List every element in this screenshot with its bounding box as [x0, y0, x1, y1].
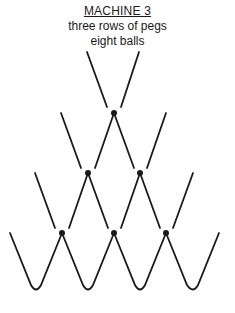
peg — [85, 170, 91, 176]
peg — [59, 230, 65, 236]
peg — [163, 230, 169, 236]
peg — [111, 230, 117, 236]
galton-board-diagram — [0, 0, 235, 313]
peg — [137, 170, 143, 176]
peg — [111, 110, 117, 116]
